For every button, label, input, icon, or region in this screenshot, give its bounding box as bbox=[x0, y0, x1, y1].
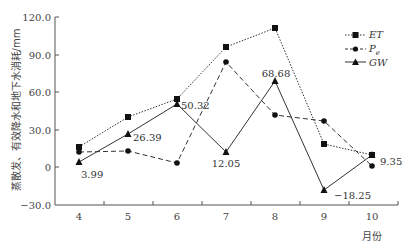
data-label: 12.05 bbox=[212, 158, 241, 169]
legend-label-pe: Pe bbox=[368, 43, 380, 57]
x-tick-label: 9 bbox=[321, 211, 327, 222]
x-tick-label: 8 bbox=[272, 211, 278, 222]
y-axis-title: 蒸散发、有效降水和地下水消耗/mm bbox=[10, 29, 22, 192]
x-tick-label: 4 bbox=[76, 211, 82, 222]
legend-label-et: ET bbox=[368, 29, 384, 40]
legend-label-gw: GW bbox=[369, 57, 388, 68]
legend-item-pe: Pe bbox=[345, 43, 380, 57]
data-label: −18.25 bbox=[334, 190, 371, 201]
legend: ET Pe GW bbox=[345, 29, 388, 68]
y-tick-label: −30.0 bbox=[20, 200, 51, 211]
x-axis-title: 月份 bbox=[362, 231, 382, 242]
data-label: 50.32 bbox=[181, 100, 210, 111]
data-label: 68.68 bbox=[262, 68, 291, 79]
legend-item-gw: GW bbox=[345, 57, 388, 68]
y-tick-label: 30.0 bbox=[29, 125, 51, 136]
x-tick-label: 10 bbox=[366, 211, 379, 222]
line-chart: 120.0 90.0 60.0 30.0 0 −30.0 4 5 6 7 8 9… bbox=[0, 0, 413, 251]
x-tick-label: 6 bbox=[174, 211, 180, 222]
x-ticks: 4 5 6 7 8 9 10 bbox=[76, 201, 398, 222]
data-label: 26.39 bbox=[133, 132, 162, 143]
y-tick-label: 60.0 bbox=[29, 87, 51, 98]
y-tick-label: 90.0 bbox=[29, 50, 51, 61]
data-label: 9.35 bbox=[380, 156, 402, 167]
y-tick-label: 0 bbox=[45, 162, 51, 173]
x-tick-label: 5 bbox=[125, 211, 131, 222]
legend-item-et: ET bbox=[345, 29, 384, 40]
data-label: 3.99 bbox=[81, 169, 103, 180]
chart-container: 120.0 90.0 60.0 30.0 0 −30.0 4 5 6 7 8 9… bbox=[0, 0, 413, 251]
y-tick-label: 120.0 bbox=[22, 12, 51, 23]
y-ticks: 120.0 90.0 60.0 30.0 0 −30.0 bbox=[20, 12, 59, 211]
series-gw bbox=[76, 77, 376, 193]
x-tick-label: 7 bbox=[223, 211, 229, 222]
